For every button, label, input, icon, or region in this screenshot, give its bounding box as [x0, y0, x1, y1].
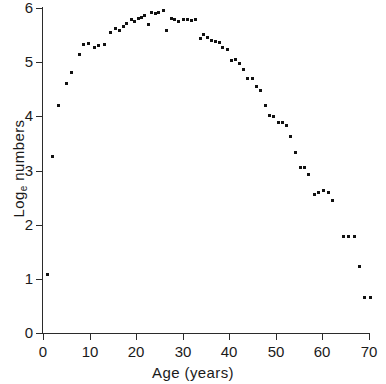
scatter-chart-figure: 0123456 010203040506070 Age (years) Loge…: [0, 0, 386, 384]
data-point: [137, 17, 140, 20]
data-point: [234, 58, 237, 61]
data-point: [87, 42, 90, 45]
data-point: [281, 121, 284, 124]
x-axis-tick-label: 0: [26, 344, 60, 359]
data-point: [210, 39, 213, 42]
x-axis-tick-label: 50: [259, 344, 293, 359]
x-axis-line: [42, 333, 370, 334]
plot-area: 0123456 010203040506070 Age (years) Loge…: [0, 0, 386, 384]
data-point: [194, 18, 197, 21]
data-point: [70, 71, 73, 74]
data-point: [313, 193, 316, 196]
data-point: [177, 20, 180, 23]
x-axis-tick: [90, 334, 91, 340]
data-point: [82, 43, 85, 46]
data-point: [103, 43, 106, 46]
data-point: [143, 14, 146, 17]
data-point: [122, 25, 125, 28]
data-point: [214, 40, 217, 43]
x-axis-tick-label: 10: [73, 344, 107, 359]
data-point: [251, 77, 254, 80]
data-point: [199, 37, 202, 40]
y-axis-tick: [36, 171, 42, 172]
data-point: [230, 59, 233, 62]
data-point: [242, 68, 245, 71]
data-point: [93, 46, 96, 49]
x-axis-tick-label: 40: [212, 344, 246, 359]
data-point: [65, 82, 68, 85]
y-axis-tick: [36, 62, 42, 63]
data-point: [125, 22, 128, 25]
x-axis-tick-label: 60: [305, 344, 339, 359]
data-point: [190, 19, 193, 22]
x-axis-tick-label: 70: [352, 344, 386, 359]
data-point: [255, 85, 258, 88]
data-point: [51, 155, 54, 158]
data-point: [307, 173, 310, 176]
x-axis-tick: [136, 334, 137, 340]
data-point: [114, 27, 117, 30]
y-axis-title-base: Log: [10, 191, 27, 217]
x-axis-tick: [183, 334, 184, 340]
data-point: [268, 114, 271, 117]
data-point: [186, 18, 189, 21]
y-axis-title-subscript: e: [18, 185, 29, 191]
x-axis-tick: [276, 334, 277, 340]
y-axis-tick-label-wrap: 5: [0, 54, 33, 69]
x-axis-tick: [369, 334, 370, 340]
y-axis-line: [42, 7, 43, 334]
data-point: [272, 115, 275, 118]
y-axis-title: Loge numbers: [10, 89, 27, 249]
y-axis-tick: [36, 8, 42, 9]
data-point: [363, 296, 366, 299]
data-point: [162, 9, 165, 12]
data-point: [46, 273, 49, 276]
y-axis-tick: [36, 279, 42, 280]
y-axis-tick-label: 5: [5, 54, 33, 69]
y-axis-tick-label-wrap: 1: [0, 271, 33, 286]
x-axis-tick: [322, 334, 323, 340]
data-point: [238, 62, 241, 65]
data-point: [118, 29, 121, 32]
y-axis-tick-label: 0: [5, 325, 33, 340]
data-point: [150, 11, 153, 14]
data-point: [299, 166, 302, 169]
data-point: [259, 89, 262, 92]
y-axis-tick-label-wrap: 6: [0, 0, 33, 15]
data-point: [294, 151, 297, 154]
y-axis-tick-label: 1: [5, 271, 33, 286]
x-axis-tick: [43, 334, 44, 340]
data-point: [202, 33, 205, 36]
data-point: [109, 31, 112, 34]
data-point: [165, 29, 168, 32]
data-point: [277, 121, 280, 124]
x-axis-tick-label: 20: [119, 344, 153, 359]
x-axis-tick-label: 30: [166, 344, 200, 359]
x-axis-title: Age (years): [0, 364, 386, 381]
data-point: [246, 77, 249, 80]
data-point: [331, 199, 334, 202]
data-point: [342, 235, 345, 238]
data-point: [173, 18, 176, 21]
y-axis-tick: [36, 116, 42, 117]
data-point: [221, 46, 224, 49]
y-axis-tick-label-wrap: 0: [0, 325, 33, 340]
data-point: [303, 166, 306, 169]
data-point: [322, 189, 325, 192]
data-point: [78, 53, 81, 56]
data-point: [347, 235, 350, 238]
data-point: [154, 12, 157, 15]
data-point: [369, 296, 372, 299]
x-axis-tick: [229, 334, 230, 340]
y-axis-tick-label: 6: [5, 0, 33, 15]
data-point: [97, 44, 100, 47]
data-point: [358, 265, 361, 268]
data-point: [218, 41, 221, 44]
data-point: [264, 104, 267, 107]
data-point: [133, 20, 136, 23]
data-point: [226, 48, 229, 51]
data-point: [317, 191, 320, 194]
y-axis-title-rest: numbers: [10, 120, 27, 186]
data-point: [157, 11, 160, 14]
data-point: [353, 235, 356, 238]
